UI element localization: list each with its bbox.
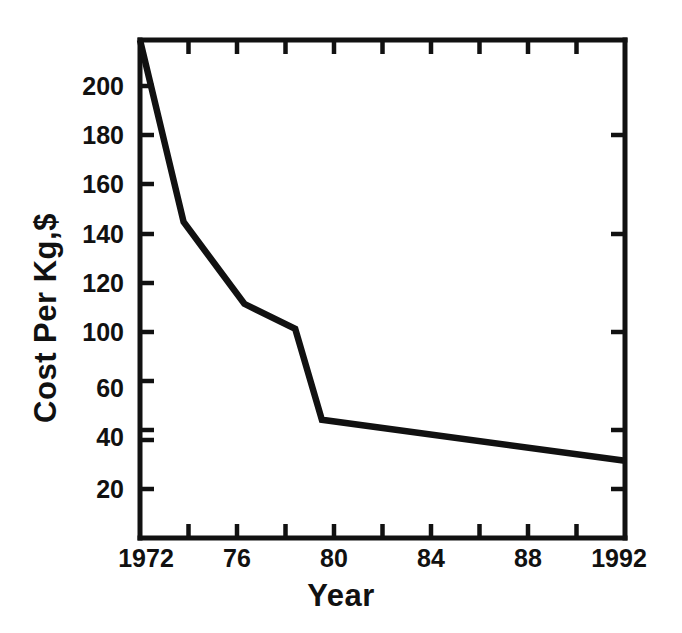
x-tick-label-1972: 1972	[118, 546, 174, 571]
x-tick-label-1992: 1992	[591, 546, 647, 571]
axis-frame	[140, 40, 625, 538]
y-tick-label-180: 180	[0, 123, 124, 148]
y-axis-title: Cost Per Kg,$	[28, 168, 64, 468]
y-tick-label-20: 20	[0, 477, 124, 502]
chart-figure: 200 180 160 140 120 100 60 40 20 1972 76…	[0, 0, 682, 633]
y-tick-label-200: 200	[0, 74, 124, 99]
x-tick-label-1976: 76	[223, 546, 251, 571]
x-tick-label-1988: 88	[514, 546, 542, 571]
x-tick-label-1984: 84	[417, 546, 445, 571]
x-tick-label-1980: 80	[320, 546, 348, 571]
x-axis-title: Year	[0, 578, 682, 614]
data-series-line	[140, 40, 625, 461]
